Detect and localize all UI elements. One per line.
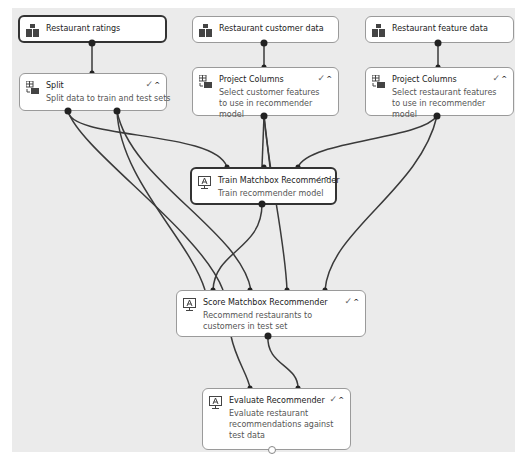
table-transform-icon	[372, 75, 385, 88]
node-score-matchbox-recommender[interactable]: Score Matchbox Recommender Recommend res…	[176, 290, 366, 337]
checkmark-icon: ✓	[318, 73, 326, 83]
collapse-chevron-icon[interactable]: ^	[501, 75, 507, 83]
output-port-left[interactable]	[65, 108, 72, 115]
collapse-chevron-icon[interactable]: ^	[326, 75, 332, 83]
model-monitor-icon	[183, 298, 196, 311]
node-status: ✓^	[493, 73, 507, 83]
node-description: Evaluate restaurant recommendations agai…	[229, 408, 347, 441]
dataset-icon	[199, 24, 212, 37]
node-project-columns-restaurant[interactable]: Project Columns Select restaurant featur…	[365, 67, 514, 116]
node-status: ✓^	[146, 79, 160, 89]
node-title: Split	[46, 81, 64, 90]
node-description: Split data to train and test sets	[46, 93, 176, 104]
node-status: ✓^	[345, 296, 359, 306]
checkmark-icon: ✓	[345, 296, 353, 306]
node-evaluate-recommender[interactable]: Evaluate Recommender Evaluate restaurant…	[202, 388, 351, 450]
output-port[interactable]	[89, 40, 96, 47]
node-title: Restaurant customer data	[219, 24, 324, 33]
checkmark-icon: ✓	[493, 73, 501, 83]
node-status: ✓^	[315, 174, 329, 184]
node-description: Select customer features to use in recom…	[219, 87, 329, 120]
checkmark-icon: ✓	[146, 79, 154, 89]
node-description: Select restaurant features to use in rec…	[392, 87, 504, 120]
table-transform-icon	[199, 75, 212, 88]
checkmark-icon: ✓	[315, 174, 323, 184]
node-title: Evaluate Recommender	[229, 396, 325, 405]
node-train-matchbox-recommender[interactable]: Train Matchbox Recommender Train recomme…	[190, 167, 337, 205]
collapse-chevron-icon[interactable]: ^	[323, 176, 329, 184]
node-description: Train recommender model	[218, 188, 333, 199]
output-port[interactable]	[435, 40, 442, 47]
model-monitor-icon	[198, 176, 211, 189]
model-monitor-icon	[209, 396, 222, 409]
output-port[interactable]	[259, 201, 266, 208]
output-port[interactable]	[434, 113, 441, 120]
node-status: ✓^	[330, 394, 344, 404]
node-description: Recommend restaurants to customers in te…	[203, 310, 313, 332]
output-port-unconnected[interactable]	[268, 446, 276, 454]
output-port[interactable]	[261, 113, 268, 120]
dataset-icon	[26, 24, 39, 37]
node-split[interactable]: Split Split data to train and test sets …	[19, 73, 167, 111]
node-title: Project Columns	[392, 75, 457, 84]
output-port[interactable]	[261, 40, 268, 47]
collapse-chevron-icon[interactable]: ^	[338, 396, 344, 404]
checkmark-icon: ✓	[330, 394, 338, 404]
node-status: ✓^	[318, 73, 332, 83]
collapse-chevron-icon[interactable]: ^	[353, 298, 359, 306]
node-title: Restaurant feature data	[392, 24, 488, 33]
node-title: Project Columns	[219, 75, 284, 84]
node-title: Restaurant ratings	[46, 24, 120, 33]
dataset-icon	[372, 24, 385, 37]
node-project-columns-customer[interactable]: Project Columns Select customer features…	[192, 67, 339, 116]
node-title: Score Matchbox Recommender	[203, 298, 328, 307]
table-transform-icon	[26, 81, 39, 94]
output-port[interactable]	[265, 333, 272, 340]
output-port-right[interactable]	[114, 108, 121, 115]
collapse-chevron-icon[interactable]: ^	[154, 81, 160, 89]
